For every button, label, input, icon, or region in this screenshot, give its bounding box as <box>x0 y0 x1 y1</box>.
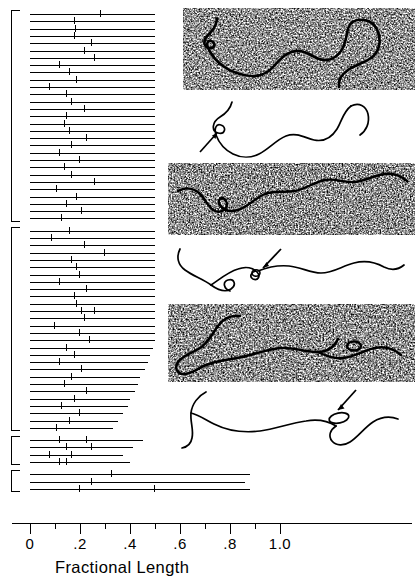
arrow-icon <box>338 390 356 410</box>
axis-tick-major <box>130 523 131 534</box>
axis-tick-major <box>280 523 281 534</box>
axis-tick-minor <box>205 523 206 529</box>
axis-tick-major <box>30 523 31 534</box>
axis-tick-label: .6 <box>173 535 187 552</box>
axis-tick-label: .8 <box>223 535 237 552</box>
axis-tick-major <box>180 523 181 534</box>
figure-root: 0.2.4.6.81.0 Fractional Length <box>0 0 420 587</box>
micrograph-panels <box>0 0 420 512</box>
micrograph-2 <box>168 163 415 235</box>
axis-tick-label: .4 <box>123 535 137 552</box>
axis-tick-minor <box>55 523 56 529</box>
tracing-2 <box>168 237 415 303</box>
axis-tick-minor <box>255 523 256 529</box>
axis-tick-label: 0 <box>26 535 35 552</box>
axis-tick-major <box>230 523 231 534</box>
axis-title: Fractional Length <box>55 558 189 577</box>
axis-line <box>12 523 412 524</box>
micrograph-3 <box>168 304 415 382</box>
axis-tick-label: 1.0 <box>269 535 291 552</box>
axis-tick-minor <box>105 523 106 529</box>
axis-tick-minor <box>155 523 156 529</box>
axis-tick-label: .2 <box>73 535 87 552</box>
tracing-3 <box>178 388 415 450</box>
arrow-icon <box>200 133 217 152</box>
micrograph-1 <box>183 8 415 90</box>
tracing-1 <box>183 100 415 162</box>
x-axis: 0.2.4.6.81.0 Fractional Length <box>0 518 420 587</box>
axis-tick-major <box>80 523 81 534</box>
